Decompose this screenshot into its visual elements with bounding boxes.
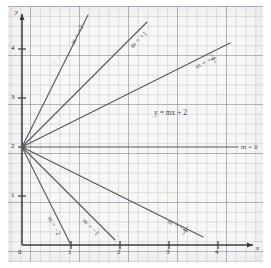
y-tick-label-4: 4 (11, 44, 15, 52)
label-m-zero: m = 0 (241, 143, 258, 150)
y-tick-label-3: 3 (11, 93, 15, 101)
ray-m-plus-1 (22, 22, 147, 147)
x-tick-label-2: 2 (117, 248, 121, 256)
y-tick-label-2: 2 (11, 142, 15, 150)
y-axis-arrow (20, 14, 25, 20)
x-tick-label-1: 1 (68, 248, 72, 256)
x-tick-label-3: 3 (166, 248, 170, 256)
ray-group (22, 15, 238, 245)
ray-m-minus-1 (22, 147, 115, 240)
equation-annotation: y = mx + 2 (154, 108, 187, 117)
y-axis-label: y (15, 8, 18, 16)
ray-m-minus-2 (22, 147, 71, 245)
x-axis-arrow (247, 243, 253, 248)
x-tick-label-0: 0 (18, 248, 22, 256)
x-tick-label-4: 4 (215, 248, 219, 256)
graph-figure: 0 1 2 3 4 1 2 3 4 x y y = mx + 2 m = +2 … (0, 0, 271, 268)
y-tick-label-1: 1 (11, 191, 15, 199)
x-axis-label: x (256, 244, 259, 252)
